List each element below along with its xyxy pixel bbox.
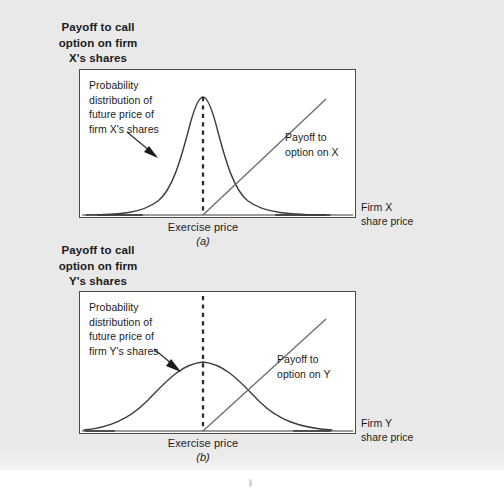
scan-speck xyxy=(249,479,252,487)
panel-b-x-axis-caption: Exercise price xyxy=(140,437,266,449)
panel-a-header: Payoff to call option on firm X's shares xyxy=(32,20,164,67)
panel-b-y-axis-label: Firm Y share price xyxy=(361,416,447,444)
panel-b-header: Payoff to call option on firm Y's shares xyxy=(32,243,164,290)
panel-a-x-axis-caption: Exercise price xyxy=(140,221,266,233)
panel-a-y-axis-label: Firm X share price xyxy=(361,200,447,228)
panel-b-payoff-note: Payoff to option on Y xyxy=(277,352,363,381)
panel-a-letter: (a) xyxy=(170,235,236,247)
panel-b-distribution-note: Probability distribution of future price… xyxy=(89,300,193,358)
panel-a-distribution-note: Probability distribution of future price… xyxy=(89,78,193,136)
panel-a-payoff-note: Payoff to option on X xyxy=(285,130,371,159)
figure-page: Payoff to call option on firm X's shares… xyxy=(0,0,504,495)
panel-b-letter: (b) xyxy=(170,451,236,463)
